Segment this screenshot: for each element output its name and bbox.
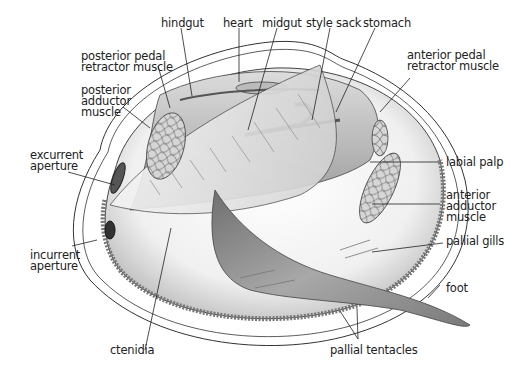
label-anterior-adductor-muscle: anterior adductor muscle bbox=[446, 190, 496, 223]
label-foot: foot bbox=[446, 283, 468, 294]
label-midgut: midgut bbox=[262, 18, 302, 29]
label-stomach: stomach bbox=[363, 18, 411, 29]
label-style-sack: style sack bbox=[306, 18, 361, 29]
label-labial-palp: labial palp bbox=[446, 157, 503, 168]
label-pallial-gills: pallial gills bbox=[446, 236, 504, 247]
label-posterior-pedal-retractor-muscle: posterior pedal retractor muscle bbox=[81, 51, 173, 73]
label-ctenidia: ctenidia bbox=[110, 345, 154, 356]
label-incurrent-aperture: incurrent aperture bbox=[30, 250, 80, 272]
label-excurrent-aperture: excurrent aperture bbox=[30, 150, 83, 172]
label-anterior-pedal-retractor-muscle: anterior pedal retractor muscle bbox=[407, 50, 499, 72]
label-hindgut: hindgut bbox=[161, 18, 204, 29]
label-posterior-adductor-muscle: posterior adductor muscle bbox=[81, 85, 131, 118]
label-heart: heart bbox=[223, 18, 253, 29]
label-pallial-tentacles: pallial tentacles bbox=[330, 345, 417, 356]
